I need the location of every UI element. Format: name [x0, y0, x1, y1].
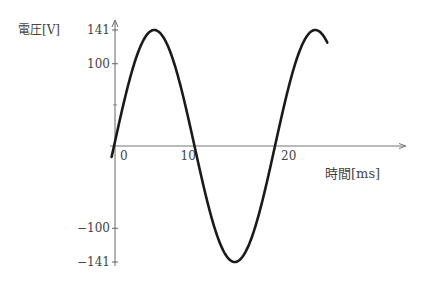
chart: 141100−100−14101020 電圧[V] 時間[ms] [0, 0, 427, 292]
y-tick-label: 100 [87, 57, 110, 71]
x-axis-label: 時間[ms] [325, 166, 380, 181]
y-tick-label: 141 [87, 23, 110, 37]
y-tick-label: −100 [77, 221, 110, 235]
y-axis-label: 電圧[V] [18, 23, 60, 37]
axes [110, 20, 406, 266]
y-tick-label: −141 [77, 255, 110, 269]
x-tick-label: 20 [281, 149, 296, 163]
x-tick-label: 10 [181, 149, 196, 163]
x-tick-label: 0 [120, 149, 128, 163]
